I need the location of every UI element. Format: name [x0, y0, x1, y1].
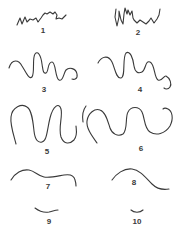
curve-1: [17, 12, 66, 25]
curve-label-3: 3: [42, 86, 46, 94]
curve-figure: 1 2 3 4 5 6 7 8 9 10: [0, 0, 182, 234]
curve-label-4: 4: [138, 86, 142, 94]
curve-label-1: 1: [41, 27, 45, 35]
curve-2: [115, 8, 160, 26]
curve-label-6: 6: [139, 145, 143, 153]
curve-5-tail: [83, 106, 86, 122]
curve-10: [131, 210, 143, 212]
curve-label-8: 8: [132, 179, 136, 187]
curve-6: [87, 108, 172, 144]
curve-7: [11, 170, 76, 186]
curve-label-7: 7: [46, 183, 50, 191]
curve-label-10: 10: [133, 218, 142, 226]
curve-label-9: 9: [47, 218, 51, 226]
curve-3: [9, 53, 77, 81]
curve-label-5: 5: [45, 148, 49, 156]
curve-8: [112, 169, 169, 189]
curve-label-2: 2: [136, 29, 140, 37]
curve-9: [35, 208, 58, 212]
curve-4: [98, 52, 171, 89]
curve-5: [11, 105, 77, 144]
